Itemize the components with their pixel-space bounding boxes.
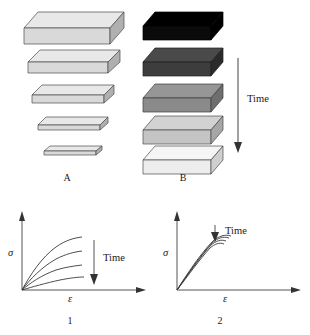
chart1-curves bbox=[22, 237, 84, 290]
chart2-xlabel: ε bbox=[223, 293, 227, 304]
block-a-2 bbox=[28, 50, 120, 73]
time-label-chart2: Time bbox=[225, 225, 247, 236]
chart1-ylabel: σ bbox=[8, 247, 13, 258]
chart-panel-2 bbox=[155, 195, 310, 335]
block-b-1 bbox=[143, 12, 223, 40]
chart2-panel-number: 2 bbox=[210, 315, 230, 326]
block-a-5 bbox=[44, 146, 102, 155]
chart2-ylabel: σ bbox=[163, 247, 168, 258]
block-a-1 bbox=[24, 12, 124, 44]
charts-area: σ ε Time 1 σ ε Time 2 bbox=[0, 195, 310, 335]
block-b-2 bbox=[143, 48, 223, 76]
block-a-3 bbox=[32, 85, 114, 103]
column-label-b: B bbox=[168, 172, 198, 183]
time-label-chart1: Time bbox=[103, 252, 125, 263]
chart-panel-1 bbox=[0, 195, 155, 335]
block-a-4 bbox=[38, 117, 108, 130]
time-label-blocks: Time bbox=[247, 93, 269, 104]
block-diagram-area: A B Time bbox=[0, 0, 310, 195]
chart1-panel-number: 1 bbox=[60, 315, 80, 326]
block-b-3 bbox=[143, 84, 223, 112]
block-b-4 bbox=[143, 116, 223, 144]
block-b-5 bbox=[143, 146, 223, 174]
time-arrow-chart1 bbox=[90, 240, 98, 285]
time-arrow-blocks bbox=[234, 58, 242, 153]
column-label-a: A bbox=[52, 172, 82, 183]
chart2-curves bbox=[177, 235, 231, 290]
chart1-xlabel: ε bbox=[68, 293, 72, 304]
figure-root: A B Time σ ε Ti bbox=[0, 0, 310, 335]
